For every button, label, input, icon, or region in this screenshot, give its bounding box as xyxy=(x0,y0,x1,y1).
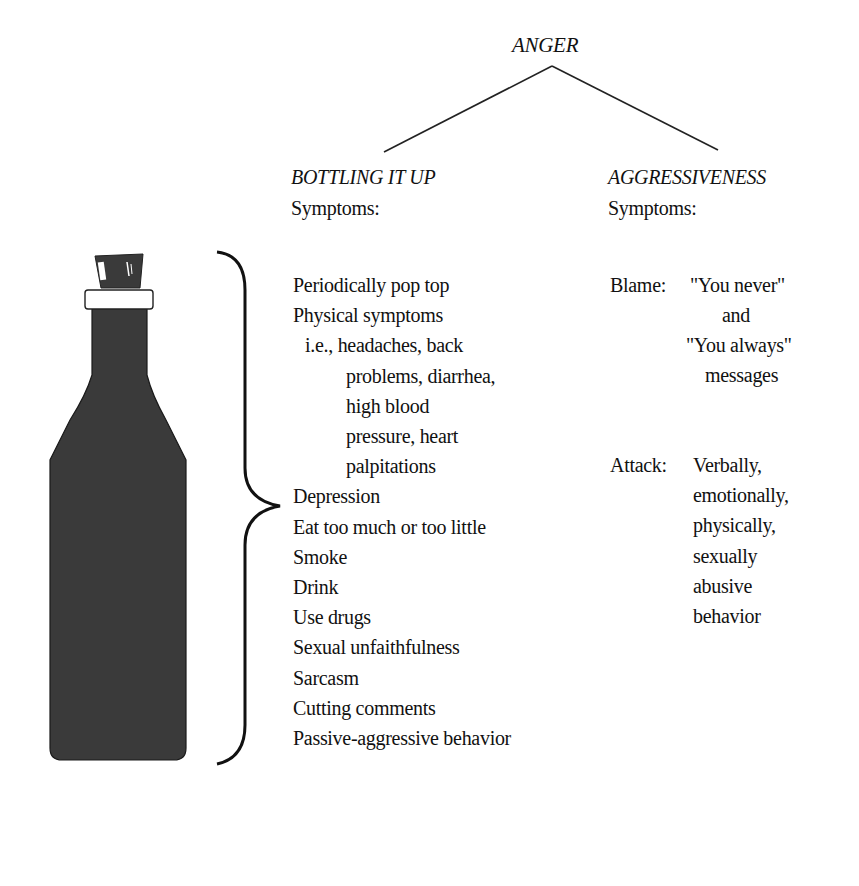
list-item: Cutting comments xyxy=(293,693,511,723)
bottle-icon xyxy=(50,254,186,760)
tree-line-right xyxy=(552,66,718,150)
attack-line: physically, xyxy=(693,510,789,540)
attack-line: abusive xyxy=(693,571,789,601)
list-item: Sexual unfaithfulness xyxy=(293,632,511,662)
list-item: Depression xyxy=(293,481,511,511)
list-item: Use drugs xyxy=(293,602,511,632)
list-item: Physical symptoms xyxy=(293,300,511,330)
list-item: palpitations xyxy=(293,451,511,481)
blame-line: "You never" xyxy=(690,270,785,300)
list-item: Smoke xyxy=(293,542,511,572)
list-item: Drink xyxy=(293,572,511,602)
list-item: Passive-aggressive behavior xyxy=(293,723,511,753)
attack-lines: Verbally, emotionally, physically, sexua… xyxy=(693,450,789,631)
blame-line: and xyxy=(722,300,750,330)
root-node-label: ANGER xyxy=(512,30,578,60)
attack-line: sexually xyxy=(693,541,789,571)
list-item: Eat too much or too little xyxy=(293,512,511,542)
bottling-symptom-list: Periodically pop top Physical symptoms i… xyxy=(293,270,511,753)
attack-line: emotionally, xyxy=(693,480,789,510)
attack-line: behavior xyxy=(693,601,789,631)
list-item: pressure, heart xyxy=(293,421,511,451)
tree-line-left xyxy=(384,66,552,152)
branch-title-aggressiveness: AGGRESSIVENESS xyxy=(608,162,766,192)
list-item: problems, diarrhea, xyxy=(293,361,511,391)
attack-label: Attack: xyxy=(610,450,667,480)
list-item: Periodically pop top xyxy=(293,270,511,300)
list-item: high blood xyxy=(293,391,511,421)
curly-brace xyxy=(217,252,280,764)
list-item: Sarcasm xyxy=(293,663,511,693)
branch-title-bottling: BOTTLING IT UP xyxy=(291,162,435,192)
list-item: i.e., headaches, back xyxy=(293,330,511,360)
blame-line: "You always" xyxy=(686,330,792,360)
blame-label: Blame: xyxy=(610,270,666,300)
branch-subtitle-aggressiveness: Symptoms: xyxy=(608,193,696,223)
branch-subtitle-bottling: Symptoms: xyxy=(291,193,379,223)
attack-line: Verbally, xyxy=(693,450,789,480)
blame-line: messages xyxy=(705,360,778,390)
